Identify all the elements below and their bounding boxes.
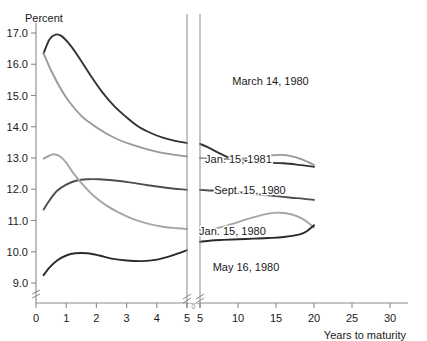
x-axis-title: Years to maturity [324, 329, 407, 341]
chart-canvas: 9.010.011.012.013.014.015.016.017.0Perce… [0, 0, 427, 341]
series-line-left-segment [44, 154, 187, 229]
break-origin-marker: 0 [192, 303, 196, 310]
x-tick-label-left: 5 [184, 312, 190, 324]
y-tick-label: 13.0 [7, 152, 28, 164]
y-tick-label: 10.0 [7, 246, 28, 258]
series-line-left-segment [44, 53, 187, 156]
x-tick-label-right: 25 [346, 312, 358, 324]
y-tick-label: 9.0 [13, 277, 28, 289]
series-label: Jan. 15, 1980 [199, 225, 266, 237]
y-tick-label: 12.0 [7, 183, 28, 195]
series-jan-15-1981 [44, 53, 314, 165]
y-axis-title: Percent [25, 12, 63, 24]
series-line-left-segment [44, 34, 187, 143]
series-label: May 16, 1980 [213, 261, 280, 273]
x-tick-label-left: 0 [33, 312, 39, 324]
x-tick-label-left: 3 [124, 312, 130, 324]
series-label: Sept. 15, 1980 [214, 184, 286, 196]
series-label: Jan. 15, 1981 [205, 153, 272, 165]
series-march-14-1980 [44, 34, 314, 166]
x-tick-label-right: 20 [308, 312, 320, 324]
series-line-left-segment [44, 179, 187, 209]
y-tick-label: 15.0 [7, 90, 28, 102]
y-tick-label: 16.0 [7, 58, 28, 70]
x-tick-label-right: 15 [270, 312, 282, 324]
series-line-left-segment [44, 250, 187, 275]
y-tick-label: 17.0 [7, 27, 28, 39]
x-tick-label-left: 2 [93, 312, 99, 324]
y-tick-label: 14.0 [7, 121, 28, 133]
axis-break-gap [188, 0, 199, 303]
x-tick-label-left: 1 [63, 312, 69, 324]
y-tick-label: 11.0 [7, 215, 28, 227]
series-label: March 14, 1980 [232, 75, 308, 87]
interest-rate-yield-curve-chart: 9.010.011.012.013.014.015.016.017.0Perce… [0, 0, 427, 341]
x-tick-label-left: 4 [154, 312, 160, 324]
x-tick-label-right: 5 [197, 312, 203, 324]
x-tick-label-right: 10 [232, 312, 244, 324]
x-tick-label-right: 30 [384, 312, 396, 324]
